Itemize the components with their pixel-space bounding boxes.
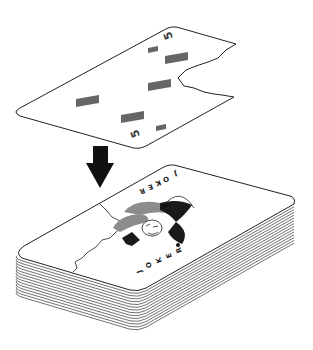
- down-arrow-icon: [86, 146, 114, 188]
- card-illustration: J O K E R R E K O J 5 5: [0, 0, 313, 350]
- five-of-diamonds-card: 5 5: [16, 27, 236, 148]
